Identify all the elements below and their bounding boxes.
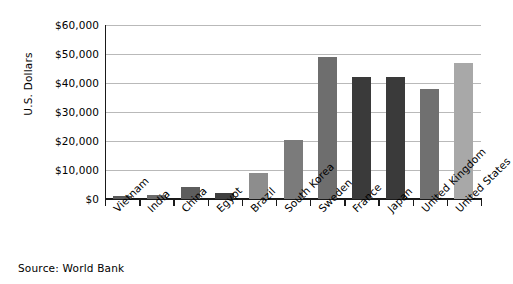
bar	[386, 77, 405, 199]
y-axis-tick-label: $20,000	[55, 135, 99, 147]
y-axis-tick-label: $10,000	[55, 164, 99, 176]
y-axis-tick-label: $30,000	[55, 106, 99, 118]
y-axis-tick-label: $0	[85, 193, 99, 205]
y-axis-tick-labels: $0$10,000$20,000$30,000$40,000$50,000$60…	[30, 18, 103, 204]
source-note: Source: World Bank	[18, 262, 124, 274]
y-axis-tick-label: $60,000	[55, 19, 99, 31]
y-axis-tick-label: $50,000	[55, 48, 99, 60]
bar	[420, 89, 439, 199]
bars-layer	[105, 25, 481, 199]
x-axis-category-labels: VietnamIndiaChinaEgyptBrazilSouth KoreaS…	[105, 206, 498, 276]
y-axis-tick-label: $40,000	[55, 77, 99, 89]
bar	[352, 77, 371, 199]
